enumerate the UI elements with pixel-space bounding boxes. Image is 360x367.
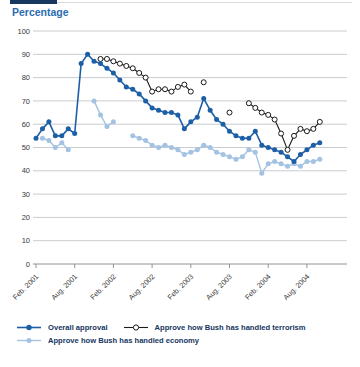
x-tick-label: Feb. 2002 — [88, 272, 118, 302]
data-point — [137, 70, 142, 75]
data-point — [292, 159, 297, 164]
data-point — [227, 129, 232, 134]
data-point — [137, 136, 142, 141]
data-point — [124, 84, 129, 89]
data-point — [169, 89, 174, 94]
legend-row-2: Approve how Bush has handled economy — [16, 336, 352, 345]
data-point — [266, 112, 271, 117]
data-point — [317, 119, 322, 124]
data-point — [246, 101, 251, 106]
data-point — [298, 152, 303, 157]
data-point — [53, 145, 58, 150]
y-axis-labels: 0102030405060708090100 — [17, 27, 30, 269]
data-point — [130, 66, 135, 71]
series-line — [36, 54, 320, 161]
y-tick-label: 100 — [17, 27, 30, 36]
data-point — [156, 108, 161, 113]
x-tick-label: Feb. 2001 — [11, 272, 41, 302]
data-point — [188, 89, 193, 94]
data-point — [117, 77, 122, 82]
data-point — [34, 136, 39, 141]
data-point — [253, 105, 258, 110]
data-point — [182, 152, 187, 157]
x-tick-label: Aug. 2001 — [49, 272, 79, 302]
y-tick-label: 10 — [22, 236, 30, 245]
figure: Percentage 0102030405060708090100Feb. 20… — [0, 0, 360, 367]
y-tick-label: 90 — [22, 50, 30, 59]
y-tick-label: 30 — [22, 190, 30, 199]
data-point — [285, 154, 290, 159]
data-point — [285, 164, 290, 169]
data-point — [59, 133, 64, 138]
data-point — [246, 147, 251, 152]
data-point — [292, 133, 297, 138]
data-point — [259, 143, 264, 148]
data-point — [298, 126, 303, 131]
y-tick-label: 80 — [22, 73, 30, 82]
data-point — [79, 61, 84, 66]
data-point — [156, 145, 161, 150]
data-point — [240, 154, 245, 159]
data-point — [195, 147, 200, 152]
data-point — [163, 87, 168, 92]
data-point — [156, 87, 161, 92]
data-point — [175, 147, 180, 152]
data-point — [150, 89, 155, 94]
data-point — [53, 133, 58, 138]
data-point — [233, 157, 238, 162]
line-chart: 0102030405060708090100Feb. 2001Aug. 2001… — [0, 0, 360, 318]
data-point — [104, 66, 109, 71]
data-point — [175, 84, 180, 89]
legend-item-economy: Approve how Bush has handled economy — [16, 336, 199, 345]
y-tick-label: 40 — [22, 166, 30, 175]
data-point — [150, 105, 155, 110]
y-tick-label: 50 — [22, 143, 30, 152]
data-point — [104, 124, 109, 129]
data-point — [259, 171, 264, 176]
data-point — [59, 140, 64, 145]
data-point — [66, 126, 71, 131]
data-point — [143, 98, 148, 103]
y-tick-label: 20 — [22, 213, 30, 222]
data-point — [72, 131, 77, 136]
data-point — [188, 119, 193, 124]
series-line — [249, 103, 320, 150]
data-point — [169, 110, 174, 115]
x-tick-label: Aug. 2002 — [127, 272, 157, 302]
data-point — [227, 154, 232, 159]
data-point — [46, 119, 51, 124]
legend-label-terrorism: Approve how Bush has handled terrorism — [155, 323, 306, 332]
data-point — [98, 112, 103, 117]
x-tick-label: Aug. 2003 — [204, 272, 234, 302]
data-point — [272, 147, 277, 152]
y-tick-label: 0 — [26, 260, 30, 269]
data-point — [221, 122, 226, 127]
legend-item-terrorism: Approve how Bush has handled terrorism — [123, 323, 306, 332]
data-point — [311, 159, 316, 164]
data-point — [150, 143, 155, 148]
data-point — [111, 70, 116, 75]
terrorism-marker-icon — [123, 323, 149, 332]
x-axis-labels: Feb. 2001Aug. 2001Feb. 2002Aug. 2002Feb.… — [11, 272, 312, 302]
data-point — [279, 161, 284, 166]
economy-marker-icon — [16, 336, 42, 345]
legend-item-overall: Overall approval — [16, 323, 108, 332]
data-point — [317, 140, 322, 145]
data-point — [130, 133, 135, 138]
data-point — [182, 82, 187, 87]
data-point — [233, 133, 238, 138]
y-tick-label: 60 — [22, 120, 30, 129]
data-point — [188, 150, 193, 155]
y-tick-label: 70 — [22, 97, 30, 106]
data-point — [201, 143, 206, 148]
data-point — [85, 52, 90, 57]
data-point — [304, 129, 309, 134]
data-point — [92, 59, 97, 64]
x-tick-label: Feb. 2004 — [243, 272, 273, 302]
data-point — [195, 115, 200, 120]
data-point — [111, 59, 116, 64]
data-point — [66, 147, 71, 152]
data-point — [253, 129, 258, 134]
data-point — [304, 159, 309, 164]
data-point — [227, 110, 232, 115]
